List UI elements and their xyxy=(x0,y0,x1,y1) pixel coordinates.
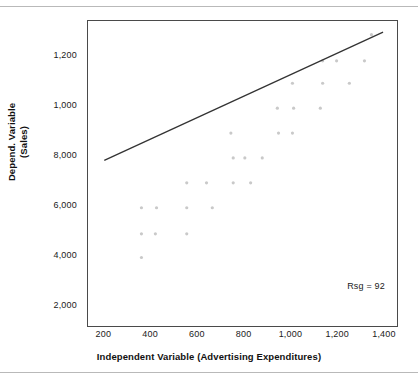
data-point xyxy=(243,156,246,159)
y-axis-tick-labels: 2,0004,0006,0008,0001,0001,200 xyxy=(0,20,83,327)
x-axis-tick-label: 1,000 xyxy=(279,330,303,339)
data-point xyxy=(154,232,157,235)
data-point xyxy=(277,131,280,134)
data-point xyxy=(155,206,158,209)
page-rule-top xyxy=(0,6,418,7)
x-axis-tick-label: 800 xyxy=(236,330,252,339)
data-point xyxy=(140,256,143,259)
data-point xyxy=(140,232,143,235)
x-axis-title: Independent Variable (Advertising Expend… xyxy=(0,351,418,362)
data-point xyxy=(261,156,264,159)
y-axis-tick-label: 6,000 xyxy=(53,201,77,210)
data-point xyxy=(232,181,235,184)
data-point xyxy=(291,131,294,134)
data-point xyxy=(140,206,143,209)
data-point xyxy=(185,206,188,209)
data-point xyxy=(363,59,366,62)
data-point xyxy=(335,59,338,62)
y-axis-tick-label: 1,200 xyxy=(53,51,77,60)
data-point xyxy=(348,82,351,85)
x-axis-tick-label: 600 xyxy=(189,330,205,339)
data-point xyxy=(321,82,324,85)
trendline-group xyxy=(104,32,383,160)
data-point xyxy=(229,131,232,134)
x-axis-tick-label: 400 xyxy=(142,330,158,339)
data-point xyxy=(319,107,322,110)
data-point xyxy=(292,107,295,110)
y-axis-tick-label: 1,000 xyxy=(53,101,77,110)
data-point xyxy=(205,181,208,184)
scatter-plot-figure: Depend. Variable (Sales) 2,0004,0006,000… xyxy=(0,10,418,370)
y-axis-tick-label: 2,000 xyxy=(53,301,77,310)
data-point xyxy=(291,82,294,85)
y-axis-tick-label: 8,000 xyxy=(53,151,77,160)
data-point xyxy=(185,181,188,184)
x-axis-tick-label: 200 xyxy=(96,330,112,339)
data-point xyxy=(211,206,214,209)
x-axis-tick-labels: 2004006008001,0001,2001,400 xyxy=(87,330,398,344)
plot-area: Rsg = 92 xyxy=(87,20,398,327)
page-rule-bottom xyxy=(0,372,418,373)
data-point xyxy=(249,181,252,184)
rsq-annotation: Rsg = 92 xyxy=(347,281,385,291)
data-point xyxy=(276,107,279,110)
x-axis-tick-label: 1,400 xyxy=(372,330,396,339)
data-points-group xyxy=(140,33,373,259)
data-point xyxy=(370,33,373,36)
data-point xyxy=(185,232,188,235)
regression-line xyxy=(104,32,383,160)
y-axis-tick-label: 4,000 xyxy=(53,251,77,260)
x-axis-tick-label: 1,200 xyxy=(325,330,349,339)
data-point xyxy=(232,156,235,159)
